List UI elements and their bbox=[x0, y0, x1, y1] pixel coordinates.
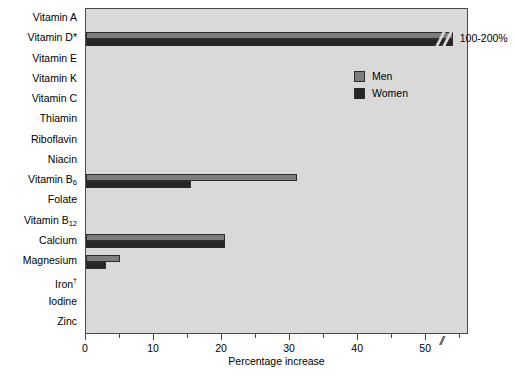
y-axis-label: Riboflavin bbox=[0, 134, 81, 145]
x-axis-tick-label: 40 bbox=[351, 342, 363, 354]
bar-women bbox=[86, 262, 106, 269]
y-axis-label: Vitamin D* bbox=[0, 32, 81, 43]
y-axis-label: Thiamin bbox=[0, 113, 81, 124]
y-axis-label: Vitamin E bbox=[0, 53, 81, 64]
legend-label-women: Women bbox=[372, 87, 408, 99]
vitamin-d-annotation: 100-200% bbox=[460, 32, 508, 44]
legend-item-men: Men bbox=[354, 70, 408, 82]
y-axis-label: Vitamin B12 bbox=[0, 215, 81, 227]
bar-men bbox=[86, 174, 297, 181]
x-axis-tick-major bbox=[153, 334, 154, 340]
x-axis-tick-label: 20 bbox=[215, 342, 227, 354]
figure-caption bbox=[22, 372, 222, 380]
x-axis-tick-minor bbox=[391, 334, 392, 338]
y-axis-label: Iodine bbox=[0, 296, 81, 307]
y-axis-label: Vitamin K bbox=[0, 73, 81, 84]
y-axis-labels: Vitamin AVitamin D*Vitamin EVitamin KVit… bbox=[0, 8, 81, 334]
bar-men bbox=[86, 255, 120, 262]
x-axis-tick-minor bbox=[255, 334, 256, 338]
y-axis-label: Vitamin B6 bbox=[0, 174, 81, 186]
x-axis-tick-minor bbox=[119, 334, 120, 338]
bar-women bbox=[86, 241, 225, 248]
x-axis-tick-label: 50 bbox=[419, 342, 431, 354]
y-axis-label: Zinc bbox=[0, 316, 81, 327]
y-axis-label: Vitamin A bbox=[0, 12, 81, 23]
y-axis-label: Folate bbox=[0, 194, 81, 205]
y-axis-label: Magnesium bbox=[0, 255, 81, 266]
x-axis-break-icon: // bbox=[440, 336, 443, 346]
x-axis-tick-minor bbox=[459, 334, 460, 338]
y-axis-label: Iron† bbox=[0, 275, 81, 290]
legend: Men Women bbox=[354, 70, 408, 104]
x-axis-tick-minor bbox=[323, 334, 324, 338]
x-axis-tick-minor bbox=[187, 334, 188, 338]
legend-swatch-men-icon bbox=[354, 71, 365, 82]
x-axis-tick-major bbox=[85, 334, 86, 340]
x-axis-tick-major bbox=[221, 334, 222, 340]
bar-men bbox=[86, 32, 453, 39]
bar-women bbox=[86, 39, 453, 46]
bar-chart: Vitamin AVitamin D*Vitamin EVitamin KVit… bbox=[0, 0, 515, 386]
bar-men bbox=[86, 234, 225, 241]
legend-swatch-women-icon bbox=[354, 88, 365, 99]
x-axis-tick-label: 30 bbox=[283, 342, 295, 354]
legend-label-men: Men bbox=[372, 70, 392, 82]
x-axis-tick-major bbox=[289, 334, 290, 340]
x-axis-tick-major bbox=[425, 334, 426, 340]
x-axis-tick-label: 0 bbox=[82, 342, 88, 354]
y-axis-label: Calcium bbox=[0, 235, 81, 246]
bar-women bbox=[86, 181, 191, 188]
y-axis-label: Niacin bbox=[0, 154, 81, 165]
x-axis-tick-major bbox=[357, 334, 358, 340]
x-axis-tick-label: 10 bbox=[147, 342, 159, 354]
y-axis-label: Vitamin C bbox=[0, 93, 81, 104]
legend-item-women: Women bbox=[354, 87, 408, 99]
plot-area bbox=[85, 8, 468, 334]
x-axis-title: Percentage increase bbox=[85, 355, 468, 367]
